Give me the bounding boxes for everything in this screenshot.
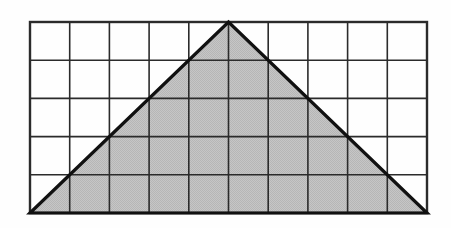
grid-triangle-figure <box>0 0 451 228</box>
figure-canvas <box>0 0 451 228</box>
